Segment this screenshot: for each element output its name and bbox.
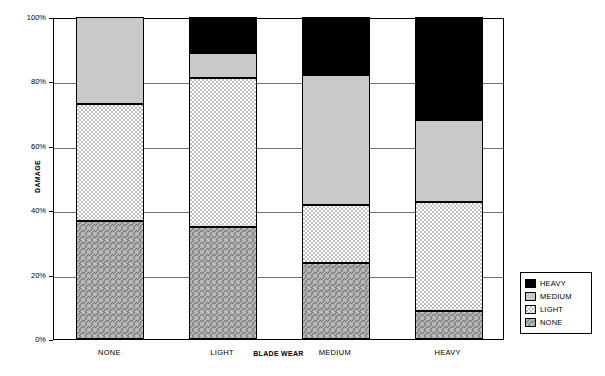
y-axis-tick-mark — [49, 276, 53, 277]
bar-segment-light — [415, 202, 483, 311]
x-axis-tick-label: MEDIUM — [285, 348, 385, 357]
legend-label: HEAVY — [540, 279, 566, 288]
bar-column — [76, 17, 144, 339]
legend-swatch-heavy — [525, 279, 536, 288]
x-axis-tick-label: HEAVY — [398, 348, 498, 357]
y-axis-tick-label: 20% — [13, 271, 46, 280]
legend-item-none: NONE — [525, 316, 586, 329]
bar-segment-none — [302, 263, 370, 339]
y-axis-tick-mark — [49, 340, 53, 341]
y-axis-tick-label: 0% — [13, 335, 46, 344]
bar-segment-heavy — [415, 17, 483, 120]
bar-segment-medium — [76, 17, 144, 104]
bar-column — [189, 17, 257, 339]
bar-segment-medium — [415, 120, 483, 202]
y-axis-title: DAMAGE — [34, 147, 41, 207]
y-axis-tick-label: 60% — [13, 142, 46, 151]
bar-segment-light — [302, 205, 370, 263]
legend-item-heavy: HEAVY — [525, 277, 586, 290]
legend-swatch-light — [525, 305, 536, 314]
y-axis-tick-mark — [49, 18, 53, 19]
legend-item-light: LIGHT — [525, 303, 586, 316]
stacked-bar-chart: DAMAGE BLADE WEAR 0%20%40%60%80%100% NON… — [0, 0, 605, 376]
bar-column — [415, 17, 483, 339]
bar-column — [302, 17, 370, 339]
legend-label: LIGHT — [540, 305, 563, 314]
legend-label: MEDIUM — [540, 292, 572, 301]
y-axis-tick-mark — [49, 147, 53, 148]
y-axis-tick-label: 80% — [13, 77, 46, 86]
y-axis-tick-mark — [49, 211, 53, 212]
x-axis-tick-label: NONE — [59, 348, 159, 357]
bar-segment-light — [189, 78, 257, 227]
bar-segment-heavy — [189, 17, 257, 53]
y-axis-tick-label: 40% — [13, 206, 46, 215]
bar-segment-medium — [189, 53, 257, 78]
legend-label: NONE — [540, 318, 562, 327]
y-axis-tick-mark — [49, 82, 53, 83]
legend-swatch-none — [525, 318, 536, 327]
legend-item-medium: MEDIUM — [525, 290, 586, 303]
bar-segment-none — [76, 221, 144, 339]
bar-segment-medium — [302, 75, 370, 205]
plot-area — [53, 18, 504, 340]
bar-segment-none — [189, 227, 257, 339]
bar-segment-none — [415, 311, 483, 339]
bar-segment-heavy — [302, 17, 370, 75]
legend: HEAVYMEDIUMLIGHTNONE — [520, 272, 592, 334]
legend-swatch-medium — [525, 292, 536, 301]
y-axis-tick-label: 100% — [13, 13, 46, 22]
x-axis-tick-label: LIGHT — [172, 348, 272, 357]
bar-segment-light — [76, 104, 144, 221]
